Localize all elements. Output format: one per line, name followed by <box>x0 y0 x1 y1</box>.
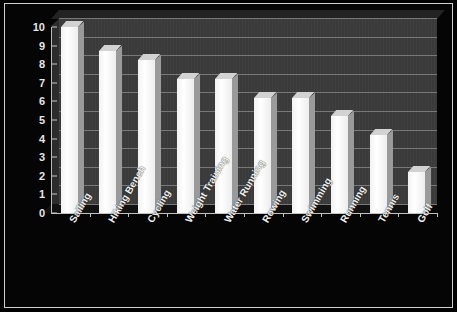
y-axis-tick-label: 7 <box>39 77 45 89</box>
bar-side-face <box>116 46 122 213</box>
chart-frame: 109876543210 SailingHiking BenchCyclingW… <box>4 3 453 308</box>
y-axis-tick-label: 9 <box>39 40 45 52</box>
bar[interactable] <box>61 27 78 213</box>
bar[interactable] <box>177 79 194 213</box>
x-axis-tick-mark <box>90 213 91 217</box>
y-axis-tick-label: 3 <box>39 151 45 163</box>
bar-front-face <box>370 135 387 213</box>
x-axis-tick-mark <box>398 213 399 217</box>
bar-front-face <box>99 51 116 213</box>
x-axis-tick-mark <box>205 213 206 217</box>
gridline <box>59 18 437 19</box>
bar-front-face <box>254 98 271 213</box>
bar[interactable] <box>331 116 348 213</box>
y-axis-tick-mark <box>52 82 57 83</box>
gridline <box>59 37 437 38</box>
y-axis-tick-mark <box>52 138 57 139</box>
y-axis-tick-label: 2 <box>39 170 45 182</box>
bar-front-face <box>215 79 232 213</box>
x-axis-tick-mark <box>167 213 168 217</box>
y-axis-tick-label: 4 <box>39 133 45 145</box>
bar-side-face <box>78 22 84 213</box>
y-axis-tick-label: 6 <box>39 95 45 107</box>
bar[interactable] <box>215 79 232 213</box>
y-axis-tick-mark <box>52 27 57 28</box>
x-axis-tick-mark <box>437 213 438 217</box>
y-axis-tick-mark <box>52 101 57 102</box>
y-axis-tick-mark <box>52 175 57 176</box>
y-axis-tick-mark <box>52 194 57 195</box>
y-axis-tick-label: 10 <box>33 21 45 33</box>
x-axis-tick-mark <box>244 213 245 217</box>
y-axis-tick-label: 5 <box>39 114 45 126</box>
bar[interactable] <box>99 51 116 213</box>
y-axis-tick-label: 8 <box>39 58 45 70</box>
bar-front-face <box>331 116 348 213</box>
y-axis-tick-mark <box>52 157 57 158</box>
bar-front-face <box>61 27 78 213</box>
x-axis-tick-mark <box>128 213 129 217</box>
y-axis-tick-mark <box>52 45 57 46</box>
y-axis-tick-mark <box>52 213 57 214</box>
bar-front-face <box>138 60 155 213</box>
x-axis-tick-mark <box>283 213 284 217</box>
y-axis-tick-mark <box>52 64 57 65</box>
bar-chart-plot-area: 109876543210 SailingHiking BenchCyclingW… <box>5 4 453 308</box>
bar[interactable] <box>292 98 309 213</box>
bar-front-face <box>177 79 194 213</box>
x-axis-tick-mark <box>360 213 361 217</box>
bar[interactable] <box>254 98 271 213</box>
y-axis-tick-label: 1 <box>39 188 45 200</box>
bar-side-face <box>155 55 161 213</box>
bar[interactable] <box>138 60 155 213</box>
y-axis-tick-label: 0 <box>39 207 45 219</box>
x-axis-tick-mark <box>321 213 322 217</box>
bar[interactable] <box>370 135 387 213</box>
bar-front-face <box>292 98 309 213</box>
y-axis-tick-mark <box>52 120 57 121</box>
